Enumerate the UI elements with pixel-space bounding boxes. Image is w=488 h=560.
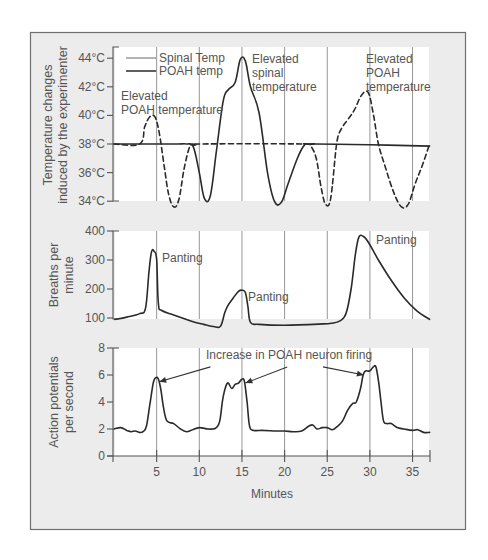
top-y-tick-label: 34°C (78, 194, 105, 208)
top-y-axis-label: Temperature changesinduced by the experi… (41, 46, 70, 204)
top-y-tick-label: 40°C (78, 108, 105, 122)
x-tick-label: 35 (406, 465, 420, 479)
bottom-y-tick-label: 6 (98, 368, 105, 382)
panting-label: Panting (162, 251, 203, 265)
x-tick-label: 30 (363, 465, 377, 479)
x-tick-label: 10 (193, 465, 207, 479)
top-y-tick-label: 38°C (78, 137, 105, 151)
legend-poah-label: POAH temp (159, 64, 223, 78)
bottom-y-tick-label: 2 (98, 422, 105, 436)
panting-label: Panting (248, 290, 289, 304)
neuron-firing-annotation: Increase in POAH neuron firing (206, 348, 372, 362)
x-tick-label: 25 (321, 465, 335, 479)
middle-y-tick-label: 300 (85, 253, 105, 267)
middle-y-tick-label: 400 (85, 224, 105, 238)
panting-label: Panting (376, 233, 417, 247)
top-y-tick-label: 36°C (78, 166, 105, 180)
bottom-y-tick-label: 4 (98, 395, 105, 409)
bottom-y-tick-label: 0 (98, 449, 105, 463)
x-tick-label: 20 (278, 465, 292, 479)
middle-y-tick-label: 200 (85, 282, 105, 296)
middle-y-tick-label: 100 (85, 311, 105, 325)
bottom-y-tick-label: 8 (98, 341, 105, 355)
top-y-tick-label: 44°C (78, 51, 105, 65)
top-y-tick-label: 42°C (78, 80, 105, 94)
x-axis-label: Minutes (251, 487, 293, 501)
legend-spinal-label: Spinal Temp (159, 51, 225, 65)
x-tick-label: 15 (235, 465, 249, 479)
chart-figure: 34°C36°C38°C40°C42°C44°C1002003004000246… (0, 0, 488, 560)
x-tick-label: 5 (153, 465, 160, 479)
